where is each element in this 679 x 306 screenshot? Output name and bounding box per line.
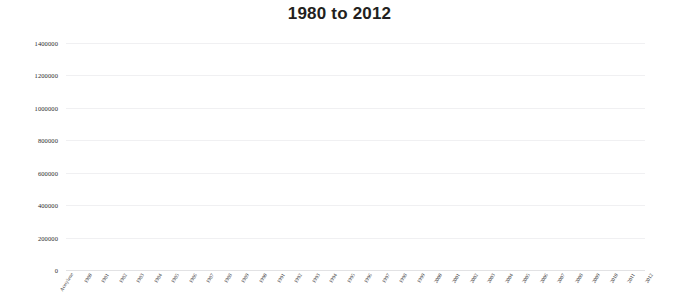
x-axis-tick-label: Acetylene bbox=[59, 272, 74, 292]
x-axis-tick-label: 2003 bbox=[485, 272, 496, 284]
x-axis-tick-label: 1985 bbox=[170, 272, 181, 284]
x-axis-tick-label: 1995 bbox=[345, 272, 356, 284]
y-axis-tick-label: 1200000 bbox=[35, 72, 58, 79]
x-axis-tick-labels: Acetylene1980198119821983198419851986198… bbox=[66, 272, 645, 306]
gridline bbox=[66, 238, 645, 239]
plot-area bbox=[66, 43, 645, 270]
x-axis-tick-label: 1996 bbox=[363, 272, 374, 284]
x-axis-tick-label: 1981 bbox=[99, 272, 110, 284]
gridline bbox=[66, 43, 645, 44]
x-axis-tick-label: 1987 bbox=[205, 272, 216, 284]
gridline bbox=[66, 140, 645, 141]
y-axis-tick-labels: 0200000400000600000800000100000012000001… bbox=[0, 43, 62, 270]
x-axis-tick-label: 2002 bbox=[468, 272, 479, 284]
x-axis-tick-label: 1994 bbox=[328, 272, 339, 284]
y-axis-tick-label: 1000000 bbox=[35, 104, 58, 111]
x-axis-tick-label: 1998 bbox=[398, 272, 409, 284]
x-axis-tick-label: 1983 bbox=[135, 272, 146, 284]
y-axis-tick-label: 600000 bbox=[38, 169, 58, 176]
gridline bbox=[66, 270, 645, 271]
x-axis-tick-label: 2006 bbox=[538, 272, 549, 284]
gridline bbox=[66, 205, 645, 206]
chart-root: 1980 to 2012 020000040000060000080000010… bbox=[0, 0, 679, 306]
x-axis-tick-label: 1992 bbox=[292, 272, 303, 284]
y-axis-tick-label: 400000 bbox=[38, 202, 58, 209]
y-axis-tick-label: 800000 bbox=[38, 137, 58, 144]
x-axis-tick-label: 1990 bbox=[257, 272, 268, 284]
gridline bbox=[66, 75, 645, 76]
gridlines bbox=[66, 43, 645, 270]
gridline bbox=[66, 108, 645, 109]
y-axis-tick-label: 200000 bbox=[38, 234, 58, 241]
x-axis-tick-label: 2009 bbox=[591, 272, 602, 284]
x-axis-tick-label: 1993 bbox=[310, 272, 321, 284]
x-axis-tick-label: 2004 bbox=[503, 272, 514, 284]
x-axis-tick-label: 2008 bbox=[573, 272, 584, 284]
x-axis-tick-label: 1986 bbox=[187, 272, 198, 284]
x-axis-tick-label: 1988 bbox=[222, 272, 233, 284]
x-axis-tick-label: 1991 bbox=[275, 272, 286, 284]
x-axis-tick-label: 2010 bbox=[608, 272, 619, 284]
x-axis-tick-label: 2001 bbox=[450, 272, 461, 284]
x-axis-tick-label: 1980 bbox=[82, 272, 93, 284]
x-axis-tick-label: 2012 bbox=[643, 272, 654, 284]
x-axis-tick-label: 1989 bbox=[240, 272, 251, 284]
x-axis-tick-label: 2007 bbox=[556, 272, 567, 284]
x-axis-tick-label: 1984 bbox=[152, 272, 163, 284]
y-axis-tick-label: 0 bbox=[55, 267, 58, 274]
x-axis-tick-label: 2005 bbox=[521, 272, 532, 284]
x-axis-tick-label: 1999 bbox=[415, 272, 426, 284]
gridline bbox=[66, 173, 645, 174]
x-axis-tick-label: 2011 bbox=[626, 272, 637, 284]
chart-title: 1980 to 2012 bbox=[0, 4, 679, 24]
x-axis-tick-label: 2000 bbox=[433, 272, 444, 284]
x-axis-tick-label: 1997 bbox=[380, 272, 391, 284]
x-axis-tick-label: 1982 bbox=[117, 272, 128, 284]
y-axis-tick-label: 1400000 bbox=[35, 40, 58, 47]
